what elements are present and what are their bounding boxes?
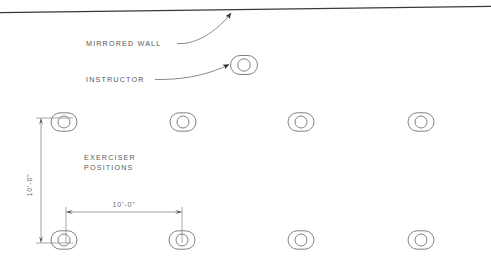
plan-svg-canvas: MIRRORED WALL INSTRUCTOR EXERCISER POSIT… [0,0,491,267]
exerciser-position-symbol[interactable] [51,113,77,131]
mirrored-wall-leader-group [177,13,231,44]
exerciser-symbol-outline [408,231,434,249]
exerciser-symbol-outline [170,113,196,131]
exerciser-symbol-inner-circle [177,116,189,128]
exerciser-symbol-outline [51,231,77,249]
exerciser-position-symbol[interactable] [288,113,314,131]
mirrored-wall-line-group [0,6,491,12]
instructor-leader-group [155,65,229,80]
floor-plan-drawing: MIRRORED WALL INSTRUCTOR EXERCISER POSIT… [0,0,491,267]
exerciser-position-symbol[interactable] [288,231,314,249]
exerciser-symbol-inner-circle [295,116,307,128]
exerciser-position-symbol[interactable] [51,231,77,249]
mirrored-wall-leader-line [177,13,231,44]
horizontal-dimension-group: 10'-0" [66,201,182,243]
instructor-leader-line [155,65,229,80]
exerciser-positions-label-line2: POSITIONS [84,163,134,172]
exerciser-position-symbol[interactable] [408,231,434,249]
exerciser-symbol-outline [51,113,77,131]
horizontal-dimension-label: 10'-0" [112,201,135,208]
exerciser-symbol-outline [288,113,314,131]
exerciser-row-top [51,113,434,131]
exerciser-symbol-inner-circle [295,234,307,246]
exerciser-positions-label-line1: EXERCISER [84,153,136,162]
exerciser-symbol-outline [288,231,314,249]
exerciser-symbol-inner-circle [58,234,70,246]
exerciser-symbol-outline [408,113,434,131]
exerciser-position-symbol[interactable] [170,113,196,131]
exerciser-symbol-inner-circle [415,234,427,246]
vertical-dimension-label: 10'-0" [26,173,33,196]
exerciser-position-symbol[interactable] [408,113,434,131]
exerciser-symbol-inner-circle [415,116,427,128]
instructor-label: INSTRUCTOR [86,75,145,84]
instructor-symbol-outline [231,56,258,75]
mirrored-wall-line [0,6,491,12]
instructor-symbol[interactable] [231,56,258,75]
exerciser-row-bottom [51,231,434,249]
instructor-symbol-inner-circle [238,59,250,71]
mirrored-wall-label: MIRRORED WALL [86,39,161,48]
